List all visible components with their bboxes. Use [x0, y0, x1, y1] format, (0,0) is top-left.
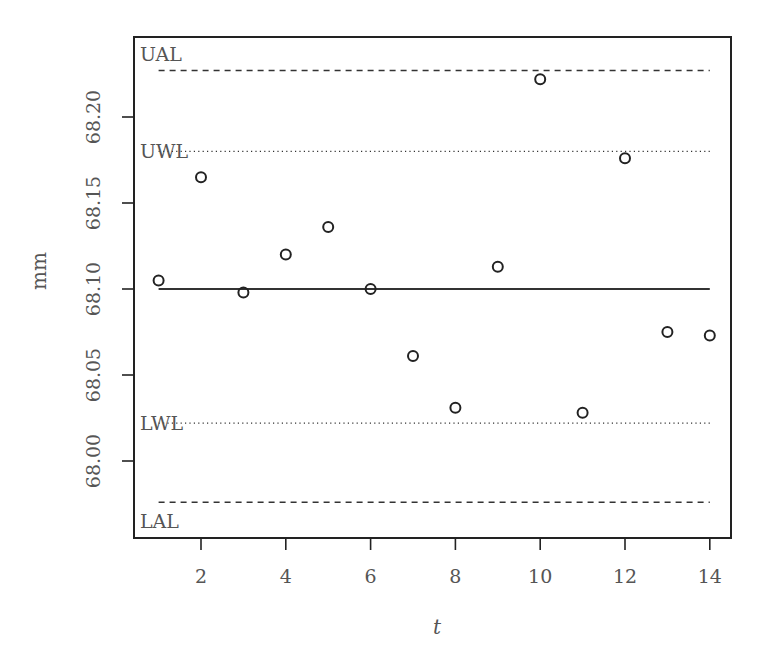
data-point: [705, 330, 715, 340]
y-tick-label: 68.05: [82, 348, 104, 402]
data-point: [578, 408, 588, 418]
data-point: [281, 250, 291, 260]
data-point: [154, 275, 164, 285]
x-tick-label: 14: [698, 565, 722, 587]
data-point: [196, 172, 206, 182]
y-tick-label: 68.15: [82, 176, 104, 230]
data-point: [450, 403, 460, 413]
label-uwl: UWL: [140, 140, 189, 162]
y-axis-label: mm: [27, 252, 51, 290]
label-lwl: LWL: [140, 412, 183, 434]
x-tick-label: 10: [528, 565, 552, 587]
reference-line-labels: UALUWLLWLLAL: [140, 43, 189, 533]
y-tick-label: 68.20: [82, 90, 104, 144]
label-lal: LAL: [140, 510, 179, 532]
data-point: [408, 351, 418, 361]
y-tick-label: 68.10: [82, 262, 104, 316]
x-tick-label: 6: [365, 565, 377, 587]
x-tick-label: 2: [195, 565, 207, 587]
label-ual: UAL: [140, 43, 182, 65]
x-axis-label: t: [433, 615, 442, 639]
x-tick-label: 4: [280, 565, 292, 587]
data-point: [323, 222, 333, 232]
plot-frame: [134, 37, 731, 538]
y-axis-ticks: 68.0068.0568.1068.1568.20: [82, 90, 134, 488]
reference-lines: [159, 71, 710, 503]
data-points: [154, 74, 715, 418]
x-axis-ticks: 2468101214: [195, 538, 722, 587]
data-point: [662, 327, 672, 337]
x-tick-label: 12: [613, 565, 637, 587]
data-point: [620, 153, 630, 163]
x-tick-label: 8: [449, 565, 461, 587]
control-chart: UALUWLLWLLAL 2468101214 68.0068.0568.106…: [0, 0, 765, 658]
data-point: [535, 74, 545, 84]
data-point: [493, 262, 503, 272]
y-tick-label: 68.00: [82, 434, 104, 488]
